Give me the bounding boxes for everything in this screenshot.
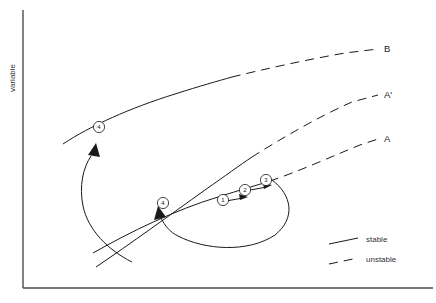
node-marker-2: 2 xyxy=(239,184,250,195)
branch-a-unstable-curve xyxy=(270,139,378,181)
branch-b-unstable-curve xyxy=(232,49,378,77)
y-axis-label: variable xyxy=(8,63,17,92)
axes-group xyxy=(23,10,433,288)
branch-aprime-label: A' xyxy=(384,89,392,100)
branch-a-label: A xyxy=(384,133,391,144)
figure-canvas: variable B A' A xyxy=(0,0,436,303)
branch-b-label: B xyxy=(384,43,390,54)
branch-b-stable-curve xyxy=(63,77,232,144)
node-markers-group: 1 2 3 4 4 xyxy=(93,121,271,208)
node-marker-3: 3 xyxy=(260,174,271,185)
node-marker-1: 1 xyxy=(217,194,228,205)
legend-group: stable unstable xyxy=(329,235,397,264)
branch-aprime-unstable-curve xyxy=(252,95,378,157)
jump-arc-to-node4-upper xyxy=(81,143,132,262)
jump-arc-upper-path xyxy=(81,156,132,262)
legend-stable-swatch xyxy=(329,238,358,244)
bifurcation-figure: variable B A' A xyxy=(0,0,436,303)
jump-arc-lower-path xyxy=(161,180,289,248)
legend-unstable-label: unstable xyxy=(366,255,397,264)
branch-aprime-stable-curve xyxy=(96,157,252,267)
y-axis-label-group: variable xyxy=(8,63,17,92)
legend-item-stable: stable xyxy=(329,235,388,244)
legend-unstable-swatch xyxy=(329,258,358,264)
legend-stable-label: stable xyxy=(366,235,388,244)
node-marker-4-lower: 4 xyxy=(157,197,168,208)
jump-arc-upper-arrowhead xyxy=(88,143,100,157)
jump-arc-to-node4-lower xyxy=(154,180,289,248)
legend-item-unstable: unstable xyxy=(329,255,397,264)
node-marker-4-upper: 4 xyxy=(93,121,104,132)
branch-b-group: B xyxy=(63,43,390,144)
